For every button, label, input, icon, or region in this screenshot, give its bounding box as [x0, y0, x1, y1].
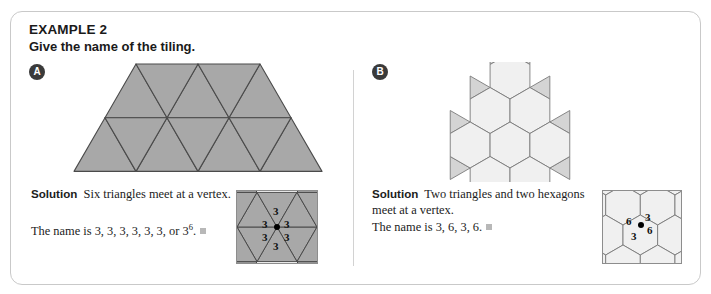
name-value-b: 3, 6, 3, 6. [436, 220, 482, 234]
vertex-label-a-0: 3 [273, 205, 279, 217]
vertex-dot-b [638, 222, 644, 228]
tiling-name-a: The name is 3, 3, 3, 3, 3, 3, or 36. [31, 220, 236, 240]
triangular-tiling-figure [60, 60, 345, 185]
vertex-label-b-1: 3 [645, 211, 651, 223]
vertex-dot-a [274, 224, 280, 230]
vertex-label-a-2: 3 [284, 218, 290, 230]
vertex-label-a-1: 3 [262, 218, 268, 230]
solution-label-a: Solution [31, 187, 77, 200]
screenshot-root: EXAMPLE 2 Give the name of the tiling. A… [0, 0, 711, 294]
end-mark-b [486, 224, 492, 230]
name-suffix-a: . [193, 224, 196, 238]
vertex-figure-inset-b: 6 3 3 6 [602, 190, 682, 264]
part-badge-a: A [29, 64, 45, 80]
solution-body-a: Six triangles meet at a vertex. [84, 187, 231, 201]
name-prefix-a: The name is [31, 224, 95, 238]
vertex-label-b-3: 6 [647, 224, 653, 236]
vertex-figure-inset-a: 3 3 3 3 3 3 [236, 190, 318, 264]
part-badge-b: B [372, 64, 388, 80]
vertex-label-b-0: 6 [626, 215, 632, 227]
name-value-a: 3, 3, 3, 3, 3, 3, or 3 [95, 224, 189, 238]
solution-text-b: Solution Two triangles and two hexagons … [372, 186, 587, 218]
page-title: EXAMPLE 2 [29, 22, 107, 37]
vertex-label-a-4: 3 [284, 231, 290, 243]
example-prompt: Give the name of the tiling. [29, 39, 195, 54]
vertex-label-a-3: 3 [262, 231, 268, 243]
end-mark-a [200, 228, 206, 234]
vertex-label-b-2: 3 [631, 230, 637, 242]
trihexagonal-tiling-figure [390, 62, 630, 182]
tiling-name-b: The name is 3, 6, 3, 6. [372, 220, 587, 236]
solution-label-b: Solution [372, 187, 418, 200]
name-prefix-b: The name is [372, 220, 436, 234]
vertex-label-a-5: 3 [273, 240, 279, 252]
solution-text-a: Solution Six triangles meet at a vertex. [31, 186, 231, 203]
column-divider [353, 70, 354, 266]
